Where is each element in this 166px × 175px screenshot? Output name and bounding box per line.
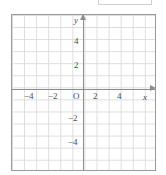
x-tick-label-4: 4 — [117, 92, 122, 101]
answer-input[interactable] — [98, 0, 152, 5]
coordinate-graph: −4 −2 2 4 O 4 2 −2 −4 x y — [11, 14, 156, 171]
origin-label: O — [73, 92, 80, 101]
y-tick-label-2: 2 — [74, 61, 79, 70]
x-axis-label: x — [143, 93, 147, 102]
x-tick-label-2: 2 — [93, 92, 98, 101]
y-axis-label: y — [74, 16, 78, 25]
x-tick-label-neg4: −4 — [24, 92, 34, 101]
y-tick-label-neg2: −2 — [68, 114, 78, 123]
y-tick-label-4: 4 — [74, 37, 79, 46]
y-axis-arrow-icon — [80, 14, 86, 20]
y-axis-line — [83, 15, 84, 170]
x-tick-label-neg2: −2 — [48, 92, 58, 101]
x-axis-arrow-icon — [150, 85, 156, 91]
y-tick-label-neg4: −4 — [68, 138, 78, 147]
